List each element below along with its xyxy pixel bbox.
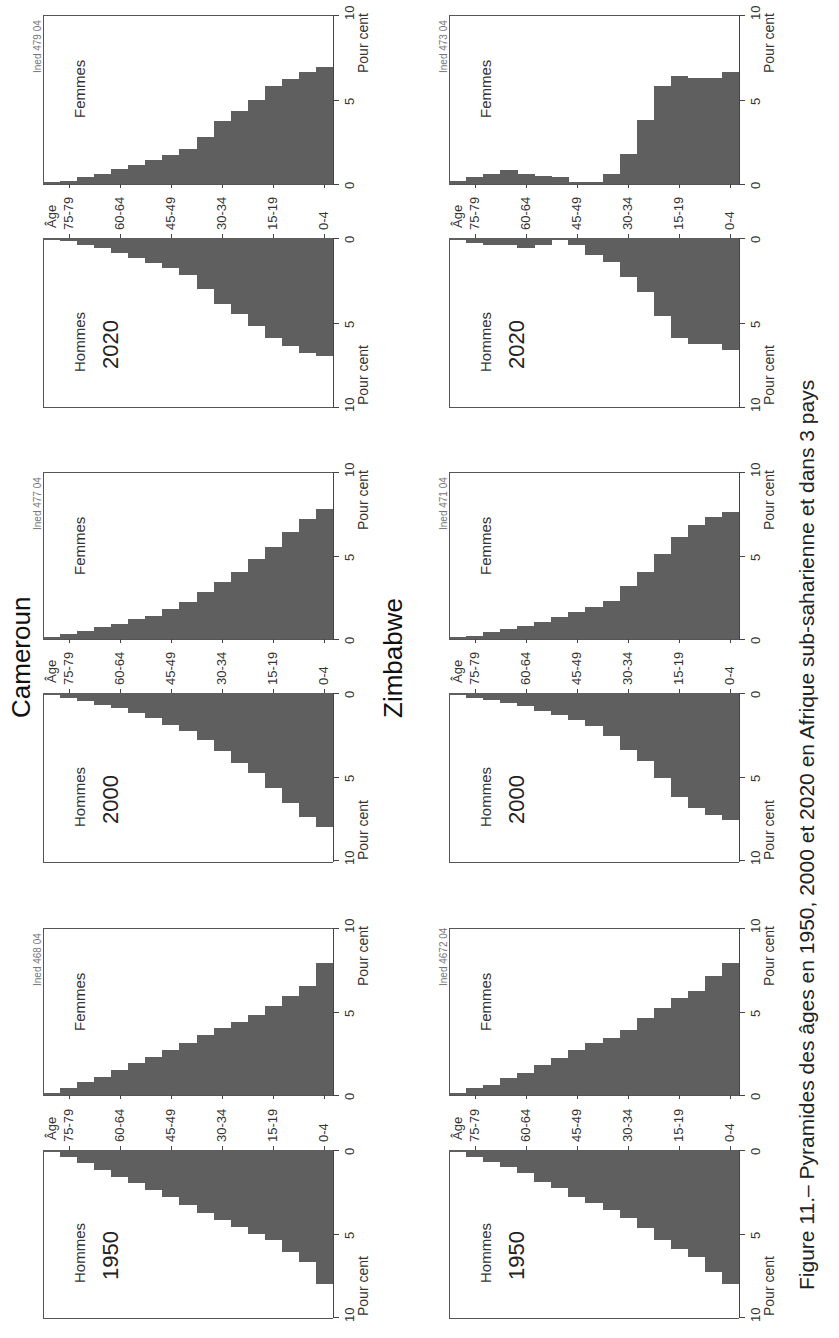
pct-tick-label: 5 (748, 1009, 763, 1016)
bar-femmes-30-34 (214, 121, 232, 184)
age-tick (577, 639, 578, 643)
age-tick (526, 689, 527, 693)
age-tick (475, 1146, 476, 1150)
pct-tick (739, 777, 745, 778)
frame-top-femmes-cameroun-2000 (43, 472, 333, 473)
baseline-femmes-zimbabwe-1950 (449, 1095, 739, 1096)
pct-tick-label: 5 (748, 97, 763, 104)
pct-tick (333, 1317, 339, 1318)
age-axis-title: Âge (44, 205, 59, 228)
frame-bottom-hommes-zimbabwe-2000 (449, 862, 739, 863)
age-tick (171, 689, 172, 693)
bar-hommes-75-79 (466, 1150, 484, 1157)
bar-hommes-70-74 (483, 238, 501, 245)
age-tick-label: 45-49 (163, 1109, 178, 1142)
unit-label-hommes: Pour cent (355, 800, 371, 860)
bar-femmes-35-39 (603, 174, 621, 184)
pct-tick (739, 15, 745, 16)
age-tick (171, 1146, 172, 1150)
bar-hommes-20-24 (248, 1150, 266, 1234)
bar-hommes-20-24 (248, 238, 266, 326)
pct-tick-label: 0 (748, 637, 763, 644)
pct-tick-label: 5 (748, 1231, 763, 1238)
age-tick (628, 1146, 629, 1150)
bar-hommes-15-19 (265, 693, 283, 788)
bar-hommes-20-24 (654, 238, 672, 316)
bar-hommes-55-59 (534, 693, 552, 711)
age-tick (69, 1095, 70, 1099)
label-hommes: Hommes (477, 1223, 494, 1283)
age-tick (324, 184, 325, 188)
bar-hommes-40-44 (179, 238, 197, 275)
bar-femmes-0-4 (722, 963, 740, 1095)
bar-hommes-30-34 (214, 238, 232, 304)
bar-hommes-30-34 (620, 238, 638, 277)
age-tick (730, 234, 731, 238)
bar-hommes-35-39 (603, 238, 621, 262)
age-tick-label: 30-34 (214, 197, 229, 230)
pct-tick (739, 556, 745, 557)
bar-hommes-70-74 (77, 693, 95, 701)
age-tick (526, 1095, 527, 1099)
bar-hommes-10-14 (688, 693, 706, 808)
bar-femmes-5-9 (705, 976, 723, 1095)
bar-femmes-20-24 (654, 554, 672, 639)
bar-femmes-40-44 (179, 602, 197, 639)
bar-femmes-65-69 (94, 1077, 112, 1095)
bar-femmes-75-79 (60, 1088, 78, 1095)
bar-hommes-65-69 (94, 238, 112, 248)
pct-tick (739, 860, 745, 861)
bar-hommes-40-44 (585, 693, 603, 726)
bar-femmes-25-29 (637, 120, 655, 184)
bar-femmes-60-64 (517, 626, 535, 639)
bar-hommes-80+ (43, 1150, 61, 1152)
bar-hommes-60-64 (517, 693, 535, 706)
bar-femmes-60-64 (111, 624, 129, 639)
pct-tick (333, 100, 339, 101)
bar-femmes-50-54 (551, 617, 569, 639)
age-tick (324, 1146, 325, 1150)
pct-tick-label: 0 (342, 691, 357, 698)
pct-tick-label: 0 (342, 1093, 357, 1100)
age-tick-label: 15-19 (671, 1109, 686, 1142)
bar-hommes-30-34 (214, 693, 232, 751)
bar-hommes-75-79 (60, 1150, 78, 1157)
pct-tick (739, 1234, 745, 1235)
source-tag: Ined 479 04 (32, 20, 43, 73)
bar-hommes-50-54 (145, 238, 163, 263)
bar-hommes-5-9 (705, 693, 723, 815)
bar-femmes-65-69 (94, 627, 112, 639)
pct-tick-label: 0 (748, 691, 763, 698)
age-tick-label: 60-64 (112, 1109, 127, 1142)
age-tick-label: 30-34 (620, 1109, 635, 1142)
bar-hommes-55-59 (128, 238, 146, 258)
pct-tick (739, 323, 745, 324)
bar-hommes-35-39 (603, 1150, 621, 1210)
bar-hommes-45-49 (568, 1150, 586, 1197)
pct-tick (333, 693, 339, 694)
unit-label-femmes: Pour cent (761, 926, 777, 986)
pct-tick-label: 0 (342, 1148, 357, 1155)
frame-top-femmes-zimbabwe-1950 (449, 928, 739, 929)
bar-hommes-35-39 (197, 693, 215, 740)
bar-hommes-35-39 (197, 1150, 215, 1213)
age-tick (730, 184, 731, 188)
bar-femmes-35-39 (197, 137, 215, 184)
age-tick (679, 234, 680, 238)
age-tick (273, 1146, 274, 1150)
bar-hommes-80+ (449, 238, 467, 240)
pct-tick (739, 238, 745, 239)
age-axis-title: Âge (44, 660, 59, 683)
bar-femmes-10-14 (282, 532, 300, 639)
bar-hommes-60-64 (517, 1150, 535, 1173)
bar-femmes-15-19 (265, 86, 283, 184)
pct-tick-label: 0 (748, 182, 763, 189)
bar-hommes-65-69 (500, 238, 518, 245)
bar-femmes-35-39 (197, 1035, 215, 1095)
bar-femmes-10-14 (282, 996, 300, 1095)
bar-femmes-35-39 (603, 601, 621, 639)
label-femmes: Femmes (477, 973, 494, 1031)
pct-tick (739, 184, 745, 185)
bar-femmes-70-74 (77, 177, 95, 184)
age-tick (273, 184, 274, 188)
